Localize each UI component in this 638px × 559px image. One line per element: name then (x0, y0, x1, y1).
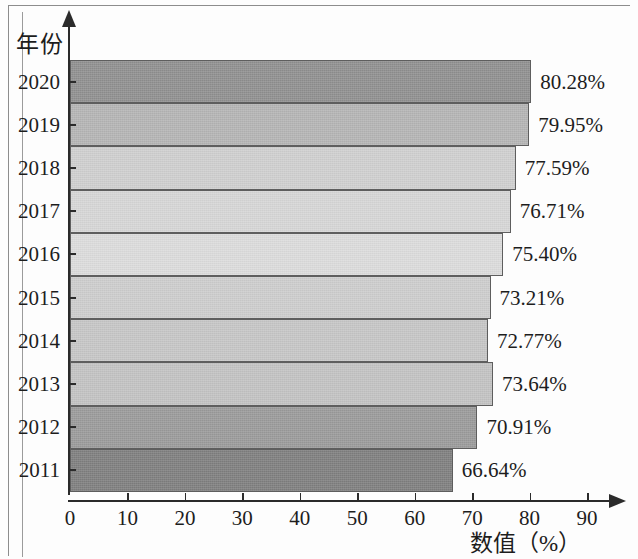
bar-2019 (70, 103, 529, 146)
y-tick-label-2013: 2013 (2, 372, 60, 397)
x-axis-line (68, 500, 613, 502)
bar-2020 (70, 60, 531, 103)
x-tick-label-0: 0 (48, 506, 92, 531)
y-tick-label-2012: 2012 (2, 415, 60, 440)
x-axis-arrow-icon (609, 494, 626, 508)
x-tick-label-70: 70 (450, 506, 494, 531)
x-tick-mark-10 (127, 493, 129, 501)
x-tick-mark-90 (587, 493, 589, 501)
x-tick-mark-50 (357, 493, 359, 501)
y-tick-mark-2011 (68, 469, 76, 471)
y-tick-mark-2020 (68, 81, 76, 83)
bar-value-label-2020: 80.28% (540, 69, 605, 94)
bar-texture (71, 61, 530, 102)
x-tick-label-50: 50 (335, 506, 379, 531)
y-axis-title: 年份 (16, 25, 64, 59)
plot-area: 年份 数值（%） 80.28%79.95%77.59%76.71%75.40%7… (0, 0, 638, 559)
x-tick-mark-70 (472, 493, 474, 501)
x-tick-mark-40 (300, 493, 302, 501)
x-tick-mark-30 (242, 493, 244, 501)
bar-texture (71, 450, 452, 491)
x-tick-label-10: 10 (105, 506, 149, 531)
y-tick-mark-2012 (68, 426, 76, 428)
bar-2018 (70, 146, 516, 189)
x-tick-label-20: 20 (163, 506, 207, 531)
x-tick-mark-60 (415, 493, 417, 501)
bar-value-label-2018: 77.59% (525, 156, 590, 181)
y-tick-label-2020: 2020 (2, 69, 60, 94)
bar-texture (71, 363, 492, 404)
bar-2017 (70, 190, 511, 233)
y-tick-label-2015: 2015 (2, 285, 60, 310)
bar-texture (71, 147, 515, 188)
y-tick-mark-2016 (68, 253, 76, 255)
y-tick-label-2019: 2019 (2, 112, 60, 137)
bar-value-label-2019: 79.95% (538, 112, 603, 137)
bar-value-label-2017: 76.71% (520, 199, 585, 224)
y-tick-label-2014: 2014 (2, 328, 60, 353)
bar-value-label-2014: 72.77% (497, 328, 562, 353)
x-tick-label-60: 60 (393, 506, 437, 531)
bar-texture (71, 407, 476, 448)
y-tick-label-2016: 2016 (2, 242, 60, 267)
bar-2016 (70, 233, 503, 276)
bar-2012 (70, 406, 477, 449)
y-tick-mark-2017 (68, 210, 76, 212)
bar-texture (71, 104, 528, 145)
bar-2013 (70, 362, 493, 405)
y-tick-label-2017: 2017 (2, 199, 60, 224)
x-tick-label-80: 80 (508, 506, 552, 531)
y-tick-mark-2015 (68, 297, 76, 299)
bar-value-label-2013: 73.64% (502, 372, 567, 397)
bar-texture (71, 191, 510, 232)
x-tick-mark-20 (185, 493, 187, 501)
bar-texture (71, 320, 487, 361)
y-tick-mark-2013 (68, 383, 76, 385)
y-tick-mark-2018 (68, 167, 76, 169)
x-tick-label-30: 30 (220, 506, 264, 531)
bar-value-label-2016: 75.40% (512, 242, 577, 267)
bar-value-label-2015: 73.21% (500, 285, 565, 310)
y-tick-mark-2019 (68, 124, 76, 126)
y-tick-label-2011: 2011 (2, 458, 60, 483)
bar-texture (71, 234, 502, 275)
bar-2011 (70, 449, 453, 492)
y-tick-mark-2014 (68, 340, 76, 342)
bar-value-label-2012: 70.91% (486, 415, 551, 440)
chart-figure: 年份 数值（%） 80.28%79.95%77.59%76.71%75.40%7… (0, 0, 638, 559)
bar-texture (71, 277, 490, 318)
bar-2015 (70, 276, 491, 319)
bar-2014 (70, 319, 488, 362)
x-tick-label-90: 90 (565, 506, 609, 531)
y-tick-label-2018: 2018 (2, 156, 60, 181)
x-tick-label-40: 40 (278, 506, 322, 531)
x-tick-mark-80 (530, 493, 532, 501)
y-axis-arrow-icon (62, 10, 76, 27)
bar-value-label-2011: 66.64% (462, 458, 527, 483)
